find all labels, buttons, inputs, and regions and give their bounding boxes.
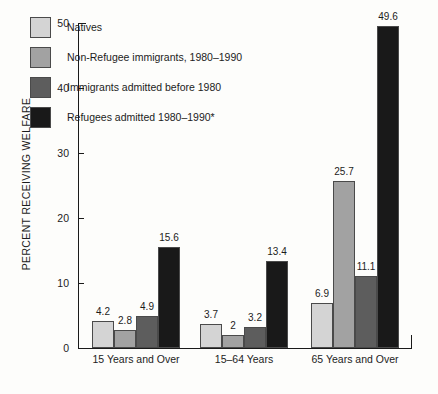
x-axis-category-label: 65 Years and Over [312, 353, 399, 365]
y-axis-tick-label: 30 [57, 148, 69, 159]
legend-item: Non-Refugee immigrants, 1980–1990 [30, 42, 242, 72]
bar-value-label: 2.8 [118, 316, 132, 326]
x-axis-right-cap [411, 335, 412, 349]
legend-item: Immigrants admitted before 1980 [30, 72, 242, 102]
bar [136, 316, 158, 348]
y-axis-tick-label: 10 [57, 278, 69, 289]
bar-value-label: 6.9 [315, 289, 329, 299]
legend-item-label: Immigrants admitted before 1980 [67, 81, 221, 93]
y-axis-tick [78, 348, 84, 349]
y-axis-tick-label: 0 [63, 343, 69, 354]
legend-item: Natives [30, 12, 242, 42]
bar-value-label: 4.2 [96, 307, 110, 317]
x-axis-category-label: 15–64 Years [215, 353, 273, 365]
legend-swatch-icon [30, 107, 51, 128]
bar [114, 330, 136, 348]
legend-swatch-icon [30, 47, 51, 68]
legend-item-label: Non-Refugee immigrants, 1980–1990 [67, 51, 242, 63]
bar [158, 247, 180, 348]
bar [355, 276, 377, 348]
legend-item-label: Natives [67, 21, 102, 33]
legend-item: Refugees admitted 1980–1990* [30, 102, 242, 132]
y-axis-tick [78, 218, 84, 219]
bar-value-label: 25.7 [334, 167, 353, 177]
bar-value-label: 3.7 [204, 310, 218, 320]
bar-value-label: 13.4 [267, 247, 286, 257]
y-axis-tick-label: 20 [57, 213, 69, 224]
x-axis-category-label: 15 Years and Over [93, 353, 180, 365]
legend-swatch-icon [30, 17, 51, 38]
bar-value-label: 15.6 [159, 233, 178, 243]
legend-swatch-icon [30, 77, 51, 98]
bar [92, 321, 114, 348]
chart-legend: NativesNon-Refugee immigrants, 1980–1990… [30, 12, 242, 132]
bar [200, 324, 222, 348]
bar [377, 26, 399, 348]
bar [311, 303, 333, 348]
bar [244, 327, 266, 348]
bar-value-label: 3.2 [248, 313, 262, 323]
y-axis-tick [78, 153, 84, 154]
bar [222, 335, 244, 348]
bar [333, 181, 355, 348]
legend-item-label: Refugees admitted 1980–1990* [67, 111, 215, 123]
x-axis-line [78, 348, 412, 349]
bar-value-label: 4.9 [140, 302, 154, 312]
bar-value-label: 2 [230, 321, 236, 331]
bar-value-label: 11.1 [357, 262, 376, 272]
bar-chart: PERCENT RECEIVING WELFARE 01020304050 4.… [0, 0, 438, 394]
bar [266, 261, 288, 348]
y-axis-tick [78, 283, 84, 284]
bar-value-label: 49.6 [378, 12, 397, 22]
